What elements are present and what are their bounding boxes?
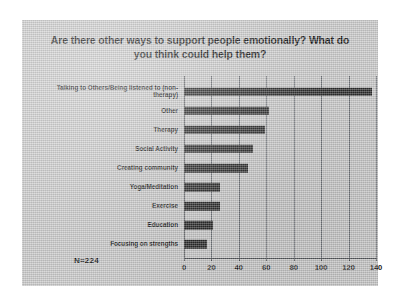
category-label: Other: [46, 107, 178, 115]
x-axis-tick: [321, 258, 322, 261]
x-axis-tick: [294, 258, 295, 261]
category-label: Social Activity: [46, 145, 178, 153]
category-label: Education: [46, 222, 178, 230]
gridline: [321, 76, 322, 258]
slide-panel: Are there other ways to support people e…: [22, 20, 378, 286]
gridline: [376, 76, 377, 258]
x-axis-tick-label: 120: [342, 263, 355, 272]
category-label: Talking to Others/Being listened to (non…: [46, 84, 178, 99]
category-label: Creating community: [46, 164, 178, 172]
x-axis-tick: [349, 258, 350, 261]
x-axis-line: [184, 258, 376, 259]
x-axis-tick: [239, 258, 240, 261]
x-axis-tick-label: 60: [262, 263, 270, 272]
bar: [184, 126, 265, 135]
x-axis-tick-label: 100: [315, 263, 328, 272]
chart-plot-area: 020406080100120140 Talking to Others/Bei…: [22, 20, 378, 286]
x-axis-tick-label: 20: [207, 263, 215, 272]
gridline: [294, 76, 295, 258]
x-axis-tick-label: 140: [370, 263, 383, 272]
bar: [184, 183, 220, 192]
x-axis-tick-label: 80: [289, 263, 297, 272]
bar: [184, 145, 253, 154]
gridline: [349, 76, 350, 258]
category-label: Therapy: [46, 126, 178, 134]
sample-size-annotation: N=224: [74, 256, 99, 265]
x-axis-tick: [184, 258, 185, 261]
bar: [184, 240, 207, 249]
x-axis-tick: [211, 258, 212, 261]
bar: [184, 106, 269, 115]
category-label: Exercise: [46, 202, 178, 210]
gridline: [266, 76, 267, 258]
bar: [184, 221, 213, 230]
x-axis-tick: [266, 258, 267, 261]
x-axis-tick-label: 40: [235, 263, 243, 272]
category-label: Yoga/Meditation: [46, 183, 178, 191]
x-axis-tick: [376, 258, 377, 261]
bar: [184, 202, 220, 211]
x-axis-tick-label: 0: [182, 263, 186, 272]
bar: [184, 87, 372, 96]
bar: [184, 164, 248, 173]
category-label: Focusing on strengths: [46, 241, 178, 249]
